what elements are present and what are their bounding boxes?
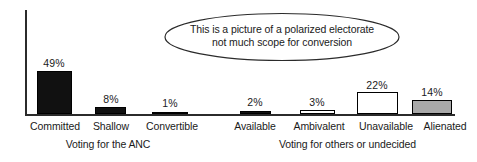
- category-label-ambivalent: Ambivalent: [284, 120, 354, 132]
- y-axis-line: [25, 10, 27, 116]
- x-axis-line: [25, 114, 455, 116]
- value-label-committed: 49%: [29, 57, 79, 69]
- category-label-unavailable: Unavailable: [350, 120, 422, 132]
- bar-chart: 49% 8% 1% 2% 3% 22% 14% Committed Shallo…: [0, 0, 477, 162]
- category-label-available: Available: [222, 120, 288, 132]
- value-label-unavailable: 22%: [352, 79, 402, 91]
- group-label-anc: Voting for the ANC: [28, 138, 188, 150]
- bar-convertible: [152, 112, 188, 115]
- bar-shallow: [95, 107, 126, 114]
- value-label-convertible: 1%: [145, 97, 195, 109]
- annotation-text: This is a picture of a polarized elector…: [163, 23, 401, 49]
- value-label-available: 2%: [230, 96, 280, 108]
- bar-available: [240, 111, 271, 115]
- value-label-ambivalent: 3%: [292, 96, 342, 108]
- category-label-alienated: Alienated: [414, 120, 476, 132]
- category-label-shallow: Shallow: [80, 120, 142, 132]
- value-label-shallow: 8%: [86, 93, 136, 105]
- annotation-line-2: not much scope for conversion: [163, 36, 401, 49]
- bar-alienated: [412, 100, 452, 114]
- bar-ambivalent: [300, 110, 335, 115]
- annotation-line-1: This is a picture of a polarized elector…: [163, 23, 401, 36]
- value-label-alienated: 14%: [407, 86, 457, 98]
- category-label-convertible: Convertible: [136, 120, 208, 132]
- group-label-others: Voting for others or undecided: [240, 138, 455, 150]
- annotation-callout: This is a picture of a polarized elector…: [163, 12, 401, 62]
- bar-unavailable: [357, 92, 398, 114]
- bar-committed: [37, 71, 72, 114]
